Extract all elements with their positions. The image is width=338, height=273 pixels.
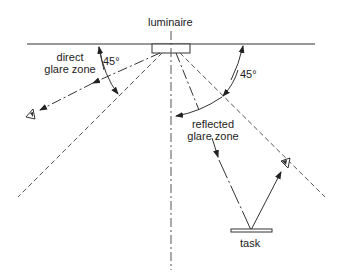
task-surface bbox=[231, 229, 272, 232]
reflected-ray-incident bbox=[176, 53, 199, 110]
reflected-zone-arc bbox=[176, 97, 222, 116]
task-label: task bbox=[240, 237, 260, 249]
direct-glare-line2: glare zone bbox=[42, 63, 98, 75]
luminaire-label: luminaire bbox=[148, 16, 193, 28]
right-angle-label: 45° bbox=[240, 68, 257, 80]
reflected-ray-to-eye bbox=[251, 172, 281, 230]
direct-glare-label: direct glare zone bbox=[42, 51, 98, 75]
left-eye-icon bbox=[26, 109, 35, 119]
reflected-glare-line1: reflected bbox=[182, 118, 244, 130]
right-eye-icon bbox=[281, 158, 290, 168]
left-angle-label: 45° bbox=[103, 55, 120, 67]
direct-glare-line1: direct bbox=[42, 51, 98, 63]
glare-diagram bbox=[0, 0, 338, 273]
reflected-glare-line2: glare zone bbox=[182, 130, 244, 142]
reflected-glare-label: reflected glare zone bbox=[182, 118, 244, 142]
direct-glare-ray-2 bbox=[40, 83, 93, 110]
